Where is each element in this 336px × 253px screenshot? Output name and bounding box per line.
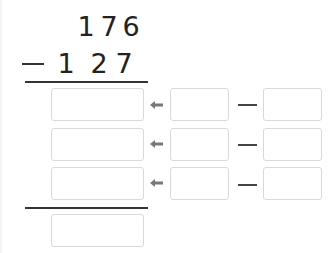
step-1-left-input[interactable] xyxy=(170,88,229,121)
minuend-digit-ones: 6 xyxy=(121,12,141,42)
final-answer-input[interactable] xyxy=(51,214,144,247)
subtrahend-digit-tens: 2 xyxy=(89,49,109,79)
arrow-left-icon xyxy=(150,139,164,149)
step-2-right-input[interactable] xyxy=(263,128,322,161)
step-3-result-input[interactable] xyxy=(51,167,144,200)
step-2-left-input[interactable] xyxy=(170,128,229,161)
minus-sign xyxy=(22,63,44,65)
minuend-digit-hundreds: 1 xyxy=(76,12,96,42)
step-2-result-input[interactable] xyxy=(51,128,144,161)
minus-dash xyxy=(238,144,257,146)
arrow-left-icon xyxy=(150,100,164,110)
frame-edge xyxy=(0,0,2,253)
minus-dash xyxy=(238,184,257,186)
subtrahend-digit-ones: 7 xyxy=(114,49,134,79)
arrow-left-icon xyxy=(150,178,164,188)
step-1-result-input[interactable] xyxy=(51,88,144,121)
bottom-rule xyxy=(25,207,148,209)
step-3-right-input[interactable] xyxy=(263,167,322,200)
minus-dash xyxy=(238,104,257,106)
subtrahend-digit-hundreds: 1 xyxy=(56,49,76,79)
minuend-digit-tens: 7 xyxy=(99,12,119,42)
step-1-right-input[interactable] xyxy=(263,88,322,121)
step-3-left-input[interactable] xyxy=(170,167,229,200)
top-rule xyxy=(25,81,148,83)
